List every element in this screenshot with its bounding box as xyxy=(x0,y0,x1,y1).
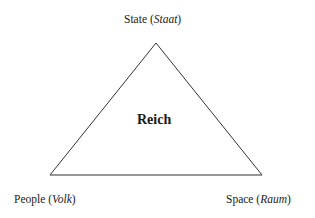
center-label-reich: Reich xyxy=(137,112,171,128)
vertex-label-people: People (Volk) xyxy=(14,193,76,205)
triangle-diagram xyxy=(0,0,315,218)
vertex-label-state: State (Staat) xyxy=(124,13,181,25)
triangle-shape xyxy=(50,43,262,175)
vertex-label-space: Space (Raum) xyxy=(226,193,291,205)
